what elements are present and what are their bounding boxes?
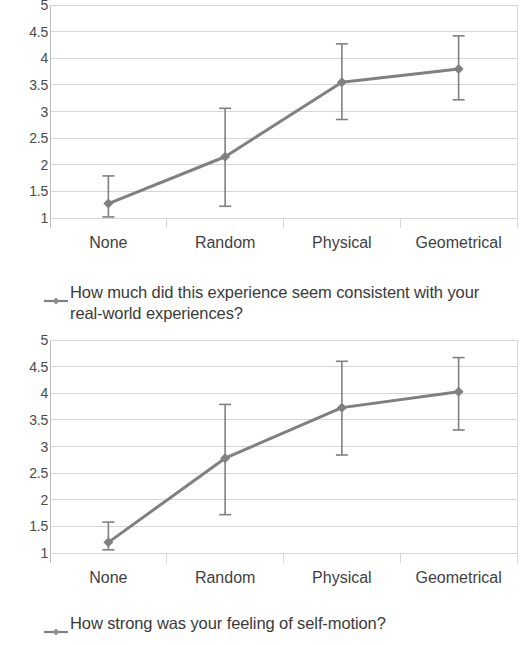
legend-label-2: How strong was your feeling of self-moti… [70, 613, 386, 634]
legend-line-marker-icon [44, 622, 68, 640]
y-axis-tick: 2 [4, 493, 48, 507]
y-axis-tick: 4.5 [4, 25, 48, 39]
x-axis-tick: Random [195, 569, 255, 587]
y-axis-tick: 2.5 [4, 466, 48, 480]
legend-line-marker-icon [44, 291, 68, 309]
y-axis-tick: 5 [4, 0, 48, 12]
legend-2: How strong was your feeling of self-moti… [0, 613, 521, 640]
y-axis-tick: 3.5 [4, 78, 48, 92]
line-chart-svg-2 [0, 335, 521, 563]
y-axis-tick: 3 [4, 105, 48, 119]
y-axis-tick: 3.5 [4, 413, 48, 427]
x-axis-tick: None [89, 569, 127, 587]
chart-panel-2: 54.543.532.521.51 NoneRandomPhysicalGeom… [0, 335, 521, 563]
x-axis-tick: Physical [312, 569, 372, 587]
y-axis-tick: 1.5 [4, 184, 48, 198]
x-axis-tick: Physical [312, 234, 372, 252]
x-axis-tick: None [89, 234, 127, 252]
y-axis-tick-labels-2: 54.543.532.521.51 [0, 335, 48, 563]
y-axis-tick: 2 [4, 158, 48, 172]
x-axis-tick: Geometrical [416, 569, 502, 587]
y-axis-tick: 1.5 [4, 519, 48, 533]
x-axis-tick-labels-2: NoneRandomPhysicalGeometrical [0, 569, 521, 593]
y-axis-tick: 1 [4, 211, 48, 225]
y-axis-tick: 4 [4, 386, 48, 400]
y-axis-tick: 2.5 [4, 131, 48, 145]
y-axis-tick: 5 [4, 333, 48, 347]
legend-1: How much did this experience seem consis… [0, 282, 521, 324]
y-axis-tick: 4.5 [4, 360, 48, 374]
plot-area-1: 54.543.532.521.51 [0, 0, 521, 228]
x-axis-tick: Random [195, 234, 255, 252]
line-chart-svg-1 [0, 0, 521, 228]
y-axis-tick: 1 [4, 546, 48, 560]
y-axis-tick: 4 [4, 51, 48, 65]
plot-area-2: 54.543.532.521.51 [0, 335, 521, 563]
figure-page: 54.543.532.521.51 NoneRandomPhysicalGeom… [0, 0, 521, 645]
y-axis-tick: 3 [4, 440, 48, 454]
x-axis-tick-labels-1: NoneRandomPhysicalGeometrical [0, 234, 521, 258]
y-axis-tick-labels-1: 54.543.532.521.51 [0, 0, 48, 228]
chart-panel-1: 54.543.532.521.51 NoneRandomPhysicalGeom… [0, 0, 521, 228]
x-axis-tick: Geometrical [416, 234, 502, 252]
legend-label-1: How much did this experience seem consis… [70, 282, 500, 324]
